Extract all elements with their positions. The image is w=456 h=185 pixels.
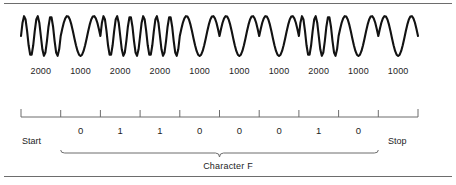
character-bracket-label: Character F bbox=[0, 160, 456, 173]
frequency-label: 1000 bbox=[180, 64, 220, 78]
bit-time-ruler-svg bbox=[0, 106, 456, 124]
bit-time-ruler bbox=[0, 106, 456, 124]
fsk-waveform-figure: 2000 1000 2000 2000 1000 1000 1000 2000 … bbox=[0, 0, 456, 185]
bit-label: 0 bbox=[267, 124, 291, 137]
frequency-label: 2000 bbox=[100, 64, 140, 78]
frequency-label-row: 2000 1000 2000 2000 1000 1000 1000 2000 … bbox=[0, 64, 456, 82]
frequency-label: 2000 bbox=[299, 64, 339, 78]
frequency-label: 1000 bbox=[259, 64, 299, 78]
bottom-divider-rule bbox=[4, 176, 452, 177]
frequency-label: 1000 bbox=[219, 64, 259, 78]
frequency-label: 2000 bbox=[140, 64, 180, 78]
top-divider-rule bbox=[4, 3, 452, 4]
bit-label: 0 bbox=[346, 124, 370, 137]
start-bit-label: Start bbox=[22, 135, 41, 148]
bit-label: 1 bbox=[307, 124, 331, 137]
bit-label: 1 bbox=[108, 124, 132, 137]
frequency-label: 2000 bbox=[21, 64, 61, 78]
frequency-label: 1000 bbox=[378, 64, 418, 78]
bit-label: 1 bbox=[148, 124, 172, 137]
waveform-plot bbox=[0, 10, 456, 66]
frequency-label: 1000 bbox=[61, 64, 101, 78]
bit-label: 0 bbox=[69, 124, 93, 137]
bit-label: 0 bbox=[227, 124, 251, 137]
waveform-svg bbox=[0, 10, 456, 66]
frequency-label: 1000 bbox=[338, 64, 378, 78]
stop-bit-label: Stop bbox=[388, 135, 407, 148]
bit-label: 0 bbox=[188, 124, 212, 137]
